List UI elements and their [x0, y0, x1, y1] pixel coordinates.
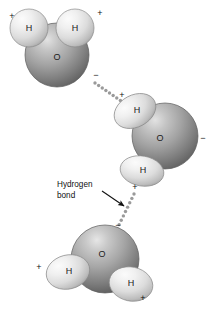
molecules-layer: OHHOHHOHH: [10, 9, 198, 305]
hydrogen-bond-label-line2: bond: [57, 191, 76, 200]
bond-dot: [97, 84, 100, 87]
charge-positive-middle-upper-h: +: [119, 90, 124, 100]
bond-dot: [130, 197, 133, 200]
hydrogen-label: H: [134, 105, 141, 115]
hydrogen-label: H: [128, 278, 135, 288]
hydrogen-label: H: [140, 165, 147, 175]
charge-negative-bottom-oxygen: −: [115, 220, 120, 230]
diagram-canvas: OHHOHHOHH ++−++−++− Hydrogen bond: [0, 0, 213, 313]
charge-positive-middle-lower-h: +: [132, 182, 137, 192]
bond-dot: [108, 91, 111, 94]
charge-positive-top-left: +: [9, 11, 14, 21]
water-molecule-middle: OHH: [108, 87, 198, 190]
water-molecule-bottom: OHH: [43, 225, 157, 305]
charge-negative-middle-oxygen: −: [200, 133, 205, 143]
hydrogen-bond-diagram: OHHOHHOHH ++−++−++− Hydrogen bond: [0, 0, 213, 313]
charge-positive-bottom-right: +: [140, 293, 145, 303]
charge-positive-top-right: +: [97, 8, 102, 18]
hydrogen-label: H: [26, 23, 33, 33]
bond-dot: [111, 94, 114, 97]
callout-arrow-icon: [102, 191, 124, 206]
bond-dot: [124, 210, 127, 213]
oxygen-label: O: [98, 249, 105, 259]
bond-dot: [128, 201, 131, 204]
bond-dot: [126, 205, 129, 208]
bond-dot: [132, 192, 135, 195]
bond-dot: [122, 214, 125, 217]
hydrogen-bond-callout: Hydrogen bond: [57, 180, 124, 206]
hydrogen-bond-label-line1: Hydrogen: [57, 180, 93, 189]
bond-dot: [93, 81, 96, 84]
water-molecule-top: OHH: [10, 9, 94, 87]
oxygen-label: O: [156, 133, 163, 143]
hydrogen-label: H: [66, 266, 73, 276]
oxygen-label: O: [53, 52, 60, 62]
bond-dot: [115, 96, 118, 99]
bond-dot: [101, 86, 104, 89]
hydrogen-label: H: [72, 23, 79, 33]
bond-dot: [104, 89, 107, 92]
charge-negative-top-oxygen: −: [93, 70, 98, 80]
charge-positive-bottom-left: +: [36, 262, 41, 272]
